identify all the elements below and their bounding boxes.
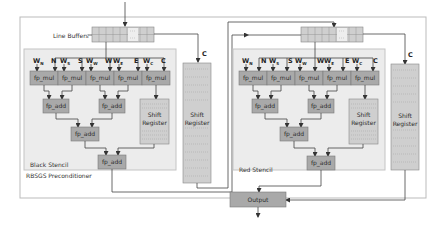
svg-text:fp_mul: fp_mul	[271, 74, 292, 82]
black-side-shift-register: Shift Register	[183, 63, 211, 183]
svg-text:N: N	[51, 57, 56, 65]
svg-text:Register: Register	[393, 120, 418, 128]
svg-text:S: S	[78, 57, 83, 65]
svg-text:fp_add: fp_add	[75, 130, 95, 138]
svg-text:C: C	[161, 57, 166, 65]
svg-text:Shift: Shift	[357, 111, 371, 118]
rbsgs-diagram: RBSGS Preconditioner Line Buffers C Blac…	[0, 0, 440, 231]
svg-text:fp_mul: fp_mul	[299, 74, 320, 82]
svg-text:fp_mul: fp_mul	[62, 74, 83, 82]
svg-text:Register: Register	[185, 119, 210, 127]
svg-text:fp_add: fp_add	[284, 130, 304, 138]
line-buffers-red	[301, 27, 363, 42]
line-buffers-label: Line Buffers	[53, 32, 89, 39]
svg-text:fp_mul: fp_mul	[34, 74, 55, 82]
black-mul-row: fp_mul fp_mul fp_mul fp_mul fp_mul	[30, 71, 170, 85]
svg-text:Shift: Shift	[148, 111, 162, 118]
svg-text:fp_add: fp_add	[255, 102, 275, 110]
svg-text:Register: Register	[351, 119, 376, 127]
svg-text:fp_mul: fp_mul	[327, 74, 348, 82]
svg-text:S: S	[288, 57, 293, 65]
svg-text:fp_mul: fp_mul	[243, 74, 264, 82]
black-stencil-label: Black Stencil	[30, 161, 69, 168]
svg-text:fp_add: fp_add	[311, 159, 331, 167]
svg-text:W: W	[105, 57, 112, 65]
preconditioner-title: RBSGS Preconditioner	[26, 172, 92, 179]
svg-text:fp_mul: fp_mul	[118, 74, 139, 82]
red-stencil-label: Red Stencil	[239, 166, 273, 173]
red-mul-row: fp_mul fp_mul fp_mul fp_mul fp_mul	[239, 71, 379, 85]
svg-text:fp_add: fp_add	[102, 158, 122, 166]
svg-text:N: N	[261, 57, 266, 65]
svg-text:fp_mul: fp_mul	[146, 74, 167, 82]
svg-text:fp_add: fp_add	[46, 102, 66, 110]
red-inner-shift-register: Shift Register	[349, 99, 378, 144]
svg-text:Register: Register	[142, 119, 167, 127]
c-label-red: C	[408, 51, 413, 59]
svg-text:fp_mul: fp_mul	[90, 74, 111, 82]
svg-text:E: E	[345, 57, 349, 65]
svg-text:fp_mul: fp_mul	[355, 74, 376, 82]
svg-text:C: C	[373, 57, 378, 65]
svg-text:E: E	[134, 57, 138, 65]
svg-text:Shift: Shift	[190, 111, 204, 118]
red-side-shift-register: Shift Register	[391, 64, 419, 170]
svg-text:Shift: Shift	[398, 112, 412, 119]
line-buffers-black	[92, 27, 154, 42]
svg-text:fp_add: fp_add	[311, 102, 331, 110]
c-label: C	[202, 50, 207, 58]
black-inner-shift-register: Shift Register	[140, 99, 169, 144]
output-label: Output	[248, 196, 269, 204]
svg-text:fp_add: fp_add	[102, 102, 122, 110]
